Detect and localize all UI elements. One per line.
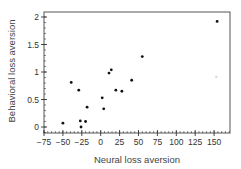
data-point (120, 90, 123, 93)
data-point (110, 68, 113, 71)
data-point (114, 89, 117, 92)
x-tick-label: 125 (188, 137, 202, 147)
data-point (84, 120, 87, 123)
y-tick-label: 0 (34, 122, 39, 132)
data-point (79, 120, 82, 123)
data-point (215, 76, 218, 79)
x-tick-label: 75 (153, 137, 163, 147)
data-point (86, 106, 89, 109)
x-tick-label: 50 (134, 137, 144, 147)
x-tick-label: 0 (98, 137, 103, 147)
plot-frame (44, 12, 230, 133)
data-point (108, 72, 111, 75)
data-point (77, 89, 80, 92)
x-tick-label: 25 (115, 137, 125, 147)
x-tick-label: −75 (37, 137, 52, 147)
data-points (62, 20, 219, 128)
plot-border (44, 12, 230, 133)
data-point (141, 55, 144, 58)
x-axis-title: Neural loss aversion (94, 154, 180, 165)
y-tick-label: 1.5 (27, 40, 39, 50)
y-tick-label: 2 (34, 12, 39, 22)
y-axis-title: Behavioral loss aversion (6, 20, 17, 123)
data-point (130, 79, 133, 82)
data-point (80, 126, 83, 129)
x-tick-label: 100 (169, 137, 183, 147)
x-tick-label: −25 (75, 137, 90, 147)
data-point (70, 81, 73, 84)
y-tick-label: 0.5 (27, 95, 39, 105)
x-tick-label: −50 (56, 137, 71, 147)
data-point (62, 122, 65, 125)
scatter-chart: 00.511.52 −75−50−250255075100125150 Neur… (0, 0, 241, 169)
data-point (216, 20, 219, 23)
data-point (102, 107, 105, 110)
data-point (101, 96, 104, 99)
y-tick-label: 1 (34, 67, 39, 77)
x-tick-label: 150 (207, 137, 221, 147)
